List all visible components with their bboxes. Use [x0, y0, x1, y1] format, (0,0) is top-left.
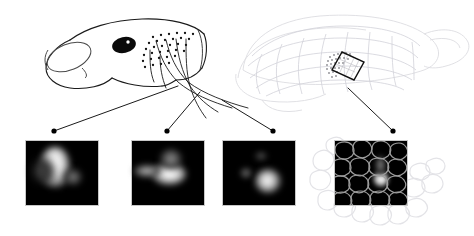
activation-blob-3 — [255, 169, 281, 193]
activation-blob-3-faint — [253, 151, 269, 161]
activation-blob-3-satellite — [239, 167, 253, 179]
imaging-panel-2[interactable] — [131, 140, 205, 206]
barrel-map-overlay — [335, 141, 407, 205]
activation-blob-1-lobe — [64, 169, 82, 185]
activation-blob-2-upper — [160, 149, 182, 169]
figure-canvas — [0, 0, 474, 236]
imaging-panel-3[interactable] — [222, 140, 296, 206]
imaging-panel-1[interactable] — [25, 140, 99, 206]
activation-blob-2-tail — [134, 165, 160, 177]
activation-blob-1-halo — [32, 159, 54, 183]
imaging-panel-4[interactable] — [334, 140, 408, 206]
